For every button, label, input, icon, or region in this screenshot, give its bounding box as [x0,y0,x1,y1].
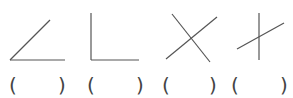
answer-blank-2-open: ( [87,74,95,96]
answer-blank-4-open: ( [231,74,239,96]
answer-blank-3-open: ( [162,74,170,96]
geometry-figures [0,0,293,98]
answer-blank-1-close: ) [58,74,66,96]
intersecting-lines-cross-figure [237,13,284,60]
answer-blank-4-close: ) [280,74,288,96]
answer-blank-1-open: ( [9,74,17,96]
answer-blank-3-close: ) [209,74,217,96]
answer-blank-2-close: ) [136,74,144,96]
intersecting-lines-x-figure [166,14,217,62]
acute-angle-figure [10,20,65,60]
right-angle-figure [91,13,139,60]
